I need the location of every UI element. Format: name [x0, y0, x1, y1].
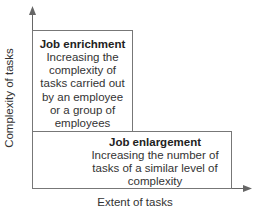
job-enrichment-text: Increasing the complexity of tasks carri… [33, 51, 132, 130]
x-axis-label: Extent of tasks [80, 196, 190, 208]
job-enrichment-title: Job enrichment [33, 38, 132, 51]
job-enlargement-text: Increasing the number of tasks of a simi… [81, 149, 229, 189]
y-axis-arrow-icon [28, 6, 37, 15]
job-enlargement-title: Job enlargement [81, 136, 229, 149]
y-axis-label: Complexity of tasks [3, 43, 15, 153]
x-axis-arrow-icon [243, 184, 252, 193]
job-enlargement-box: Job enlargement Increasing the number of… [32, 131, 232, 189]
